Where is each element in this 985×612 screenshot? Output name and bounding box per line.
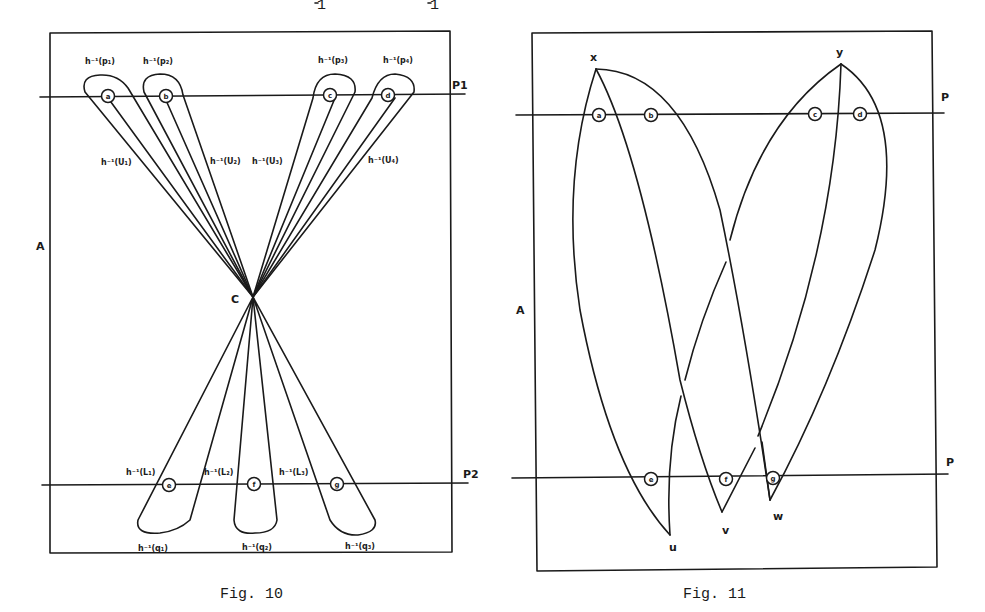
fig10-label-h-inv-u3: h⁻¹(U₃) — [252, 157, 283, 166]
fig11-point-b: b — [648, 112, 653, 120]
fig10-label-h-inv-p1: h⁻¹(p₁) — [85, 57, 115, 66]
fig11-curve-x-u-outer — [573, 69, 670, 535]
fig10-center-label: C — [231, 293, 239, 306]
fig10-caption: Fig. 10 — [220, 586, 283, 603]
fig10-label-h-inv-l3: h⁻¹(L₃) — [279, 468, 308, 477]
fig10-label-h-inv-u4: h⁻¹(U₄) — [368, 156, 399, 165]
fig10-point-g: g — [334, 481, 339, 489]
fig10-region-label: A — [36, 240, 45, 253]
fig11-vertex-x: x — [590, 51, 597, 64]
fig11-point-c: c — [813, 111, 817, 119]
fig10-label-h-inv-u2: h⁻¹(U₂) — [210, 157, 241, 166]
fig10-label-h-inv-p2: h⁻¹(p₂) — [143, 57, 173, 66]
fig10-point-a: a — [106, 93, 111, 101]
fig10-label-h-inv-q2: h⁻¹(q₂) — [242, 543, 272, 552]
fig11-point-g: g — [770, 475, 775, 483]
fig10-point-b: b — [163, 93, 168, 101]
fig11-curve-y-mid — [685, 262, 726, 380]
fig10-label-h-inv-l2: h⁻¹(L₂) — [204, 468, 233, 477]
fig10-teardrop-q3 — [253, 297, 375, 535]
fig10-teardrop-q2 — [234, 297, 277, 533]
fig11-vertex-w: w — [773, 510, 783, 523]
fig11-vertex-u: u — [669, 541, 677, 554]
figure-11: a b c d e f g x y u v w A P P Fig. 11 — [512, 31, 954, 603]
fig10-label-h-inv-u1: h⁻¹(U₁) — [101, 158, 132, 167]
fig10-line-label-p2: P2 — [463, 468, 479, 481]
fig10-point-d: d — [385, 92, 390, 100]
fig11-curve-y-u — [669, 396, 681, 535]
fig10-point-e: e — [167, 482, 172, 490]
fig11-line-label-p2: P — [946, 456, 954, 469]
fig10-label-h-inv-q3: h⁻¹(q₃) — [345, 542, 375, 551]
fig10-teardrop-p1 — [84, 75, 253, 297]
fig11-point-e: e — [649, 476, 654, 484]
fig10-label-h-inv-l1: h⁻¹(L₁) — [126, 468, 155, 477]
fig11-point-d: d — [857, 111, 862, 119]
header-subscript-2: 1 — [430, 0, 439, 14]
fig10-point-c: c — [328, 92, 332, 100]
fig10-line-label-p1: P1 — [452, 79, 468, 92]
fig11-curve-x-v — [596, 69, 722, 512]
fig10-label-h-inv-p4: h⁻¹(p₄) — [383, 56, 413, 65]
fig10-teardrop-p2 — [143, 74, 253, 297]
fig11-vertex-v: v — [722, 524, 730, 537]
header-subscript-1: 1 — [317, 0, 326, 14]
figure-10: a b c d e f g h⁻¹(p₁) h⁻¹(p₂) h⁻¹(p₃) h⁻… — [36, 31, 479, 603]
fig11-region-label: A — [516, 304, 525, 317]
fig11-vertex-y: y — [836, 46, 843, 59]
figures-canvas: 1 1 a b c d e — [0, 0, 985, 612]
fig11-point-a: a — [597, 112, 602, 120]
header-fragment: 1 1 — [315, 0, 439, 14]
fig11-curve-y-v — [758, 64, 841, 436]
fig10-label-h-inv-q1: h⁻¹(q₁) — [138, 544, 168, 553]
fig11-caption: Fig. 11 — [683, 586, 746, 603]
fig11-line-label-p1: P — [941, 91, 949, 104]
fig11-curve-y-w — [770, 64, 887, 500]
fig10-label-h-inv-p3: h⁻¹(p₃) — [318, 56, 348, 65]
